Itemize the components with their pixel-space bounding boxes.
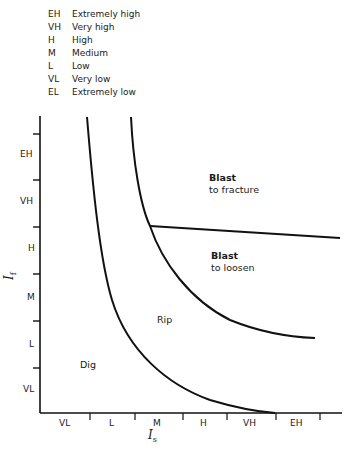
y-tick-label: M bbox=[27, 292, 35, 302]
region-label-line: Blast bbox=[211, 250, 255, 262]
x-tick-label: EH bbox=[290, 418, 302, 428]
y-tick-label: VL bbox=[23, 384, 34, 394]
region-blast-loosen: Blast to loosen bbox=[211, 250, 255, 274]
chart-plot bbox=[0, 0, 356, 456]
blast-boundary bbox=[150, 226, 340, 238]
region-rip: Rip bbox=[157, 314, 172, 326]
region-label-line: to fracture bbox=[209, 184, 259, 196]
region-label-line: Blast bbox=[209, 172, 259, 184]
x-tick-label: VH bbox=[243, 418, 256, 428]
y-tick-label: EH bbox=[20, 149, 32, 159]
y-tick-label: H bbox=[28, 243, 35, 253]
region-label-line: to loosen bbox=[211, 262, 255, 274]
y-axis-title: If bbox=[2, 272, 18, 280]
y-tick-label: L bbox=[29, 339, 34, 349]
x-axis-title: Is bbox=[148, 428, 157, 444]
x-tick-label: VL bbox=[59, 418, 70, 428]
y-tick-label: VH bbox=[20, 196, 33, 206]
x-tick-label: H bbox=[200, 418, 207, 428]
x-tick-label: M bbox=[153, 418, 161, 428]
region-dig: Dig bbox=[80, 359, 96, 371]
region-blast-fracture: Blast to fracture bbox=[209, 172, 259, 196]
x-tick-label: L bbox=[109, 418, 114, 428]
